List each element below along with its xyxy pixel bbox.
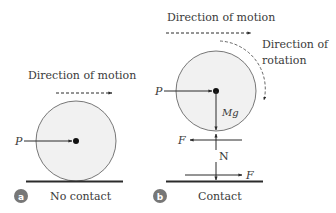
normal-label: N: [219, 150, 229, 163]
friction-bottom-label: F: [245, 169, 254, 182]
force-p-label-a: P: [14, 135, 23, 148]
caption-a: No contact: [50, 190, 112, 203]
motion-label-a: Direction of motion: [28, 69, 136, 82]
rotation-label-2: rotation: [262, 54, 307, 67]
motion-label-b: Direction of motion: [167, 11, 275, 24]
force-p-label-b: P: [154, 85, 163, 98]
rolling-wheel-diagram: Direction of motion P a No contact Direc…: [0, 0, 336, 213]
rotation-label-1: Direction of: [262, 38, 329, 51]
badge-a-label: a: [18, 192, 24, 202]
center-dot-a: [73, 138, 79, 144]
panel-a: Direction of motion P a No contact: [14, 69, 136, 203]
friction-top-label: F: [177, 134, 186, 147]
badge-b-label: b: [157, 192, 164, 202]
panel-b: Direction of motion Direction of rotatio…: [153, 11, 329, 203]
caption-b: Contact: [198, 190, 242, 203]
weight-label: Mg: [221, 107, 239, 118]
